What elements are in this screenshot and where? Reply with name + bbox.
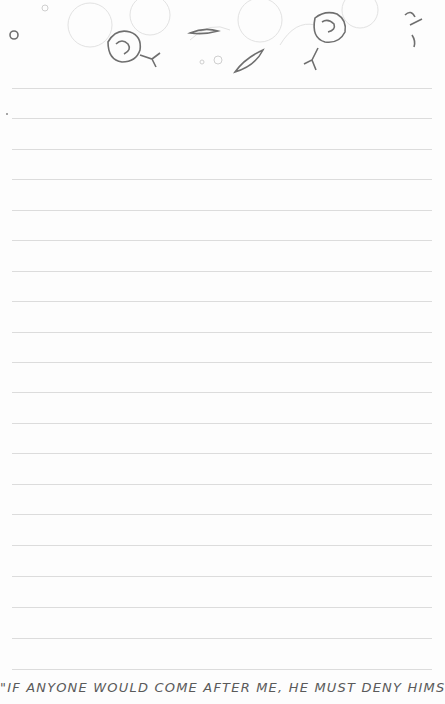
writing-line[interactable]	[12, 362, 432, 363]
writing-line[interactable]	[12, 149, 432, 150]
writing-line[interactable]	[12, 607, 432, 608]
writing-line[interactable]	[12, 453, 432, 454]
writing-line[interactable]	[12, 240, 432, 241]
writing-line[interactable]	[12, 669, 432, 670]
writing-line[interactable]	[12, 514, 432, 515]
stray-mark	[6, 113, 8, 115]
writing-line[interactable]	[12, 423, 432, 424]
ruled-lines	[12, 0, 432, 704]
writing-line[interactable]	[12, 118, 432, 119]
footer-quote: "IF ANYONE WOULD COME AFTER ME, HE MUST …	[0, 680, 445, 695]
writing-line[interactable]	[12, 332, 432, 333]
writing-line[interactable]	[12, 576, 432, 577]
writing-line[interactable]	[12, 638, 432, 639]
writing-line[interactable]	[12, 210, 432, 211]
writing-line[interactable]	[12, 271, 432, 272]
writing-line[interactable]	[12, 179, 432, 180]
writing-line[interactable]	[12, 392, 432, 393]
writing-line[interactable]	[12, 88, 432, 89]
writing-line[interactable]	[12, 301, 432, 302]
writing-line[interactable]	[12, 545, 432, 546]
writing-line[interactable]	[12, 484, 432, 485]
